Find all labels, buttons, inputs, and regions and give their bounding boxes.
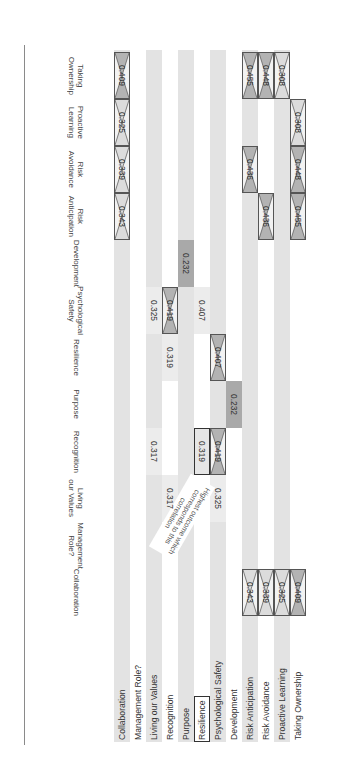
correlation-cell: 0.325 — [274, 569, 290, 616]
cell-value: 0.343 — [117, 206, 127, 227]
cell-value: 0.343 — [245, 582, 255, 603]
table-row-resilience: Resilience — [194, 50, 210, 742]
correlation-cell: 0.325 — [146, 287, 162, 334]
correlation-cell: 0.448 — [290, 146, 306, 193]
cell-value: 0.325 — [277, 582, 287, 603]
correlation-cell: 0.319 — [162, 334, 178, 381]
column-header-management-role: ManagementRole? — [40, 522, 112, 569]
cell-value: 0.436 — [245, 159, 255, 180]
correlation-cell: 0.343 — [114, 193, 130, 240]
correlation-cell: 0.325 — [210, 475, 226, 522]
row-label: Risk Avoidance — [258, 681, 274, 740]
column-header-label: Development — [72, 240, 81, 287]
table-row-proactive-learning: Proactive Learning — [274, 50, 290, 742]
cell-value: 0.317 — [165, 488, 175, 509]
rotated-correlation-table-page: CollaborationManagementRole?Livingour Va… — [0, 0, 349, 764]
cell-value: 0.232 — [181, 253, 191, 274]
column-header-label: Collaboration — [72, 569, 81, 616]
column-header-taking-ownership: TakingOwnership — [40, 52, 112, 99]
column-header-risk-avoidance: RiskAvoidance — [40, 146, 112, 193]
correlation-cell: 0.339 — [258, 569, 274, 616]
column-header-label: ProactiveLearning — [67, 106, 85, 139]
row-label: Development — [226, 689, 242, 740]
correlation-cell: 0.319 — [194, 428, 210, 475]
cell-value: 0.325 — [213, 488, 223, 509]
column-header-development: Development — [40, 240, 112, 287]
row-label: Risk Anticipation — [242, 677, 258, 740]
cell-value: 0.448 — [293, 159, 303, 180]
cell-value: 0.319 — [165, 347, 175, 368]
correlation-cell: 0.455 — [242, 52, 258, 99]
correlation-cell: 0.343 — [242, 569, 258, 616]
column-header-label: ManagementRole? — [67, 522, 85, 569]
row-label: Purpose — [178, 708, 194, 740]
row-label: Proactive Learning — [274, 668, 290, 740]
correlation-cell: 0.448 — [258, 52, 274, 99]
row-label: Collaboration — [114, 689, 130, 740]
cell-value: 0.232 — [229, 394, 239, 415]
correlation-cell: 0.409 — [114, 52, 130, 99]
cell-value: 0.325 — [117, 112, 127, 133]
column-header-label: Livingour Values — [67, 480, 85, 518]
cell-value: 0.308 — [293, 112, 303, 133]
column-header-risk-anticipation: RiskAnticipation — [40, 193, 112, 240]
column-header-label: Resilience — [72, 339, 81, 376]
column-header-psychological-safety: PsychologicalSafety — [40, 287, 112, 334]
cell-value: 0.308 — [277, 65, 287, 86]
table-row-management-role: Management Role? — [130, 50, 146, 742]
correlation-cell: 0.419 — [210, 428, 226, 475]
cell-value: 0.407 — [213, 347, 223, 368]
cell-value: 0.409 — [293, 582, 303, 603]
correlation-cell: 0.317 — [146, 428, 162, 475]
correlation-cell: 0.232 — [178, 240, 194, 287]
column-header-recognition: Recognition — [40, 428, 112, 475]
row-label: Recognition — [162, 695, 178, 740]
table-row-recognition: Recognition — [162, 50, 178, 742]
row-label: Taking Ownership — [290, 672, 306, 740]
column-header-purpose: Purpose — [40, 381, 112, 428]
column-header-resilience: Resilience — [40, 334, 112, 381]
row-label: Resilience — [194, 696, 210, 742]
cell-value: 0.317 — [149, 441, 159, 462]
column-header-proactive-learning: ProactiveLearning — [40, 99, 112, 146]
correlation-cell: 0.407 — [194, 287, 210, 334]
correlation-cell: 0.232 — [226, 381, 242, 428]
column-header-label: Recognition — [72, 430, 81, 472]
cell-value: 0.409 — [117, 65, 127, 86]
correlation-cell: 0.308 — [290, 99, 306, 146]
cell-value: 0.436 — [261, 206, 271, 227]
correlation-cell: 0.419 — [162, 287, 178, 334]
correlation-cell: 0.436 — [242, 146, 258, 193]
row-label: Management Role? — [130, 665, 146, 740]
correlation-cell: 0.436 — [258, 193, 274, 240]
table-row-living-our-values: Living our Values — [146, 50, 162, 742]
cell-value: 0.448 — [261, 65, 271, 86]
column-header-label: Purpose — [72, 390, 81, 420]
table-row-risk-avoidance: Risk Avoidance — [258, 50, 274, 742]
table-row-purpose: Purpose — [178, 50, 194, 742]
column-header-living-our-values: Livingour Values — [40, 475, 112, 522]
column-header-label: RiskAvoidance — [67, 151, 85, 188]
column-header-collaboration: Collaboration — [40, 569, 112, 616]
cell-value: 0.319 — [197, 441, 207, 462]
cell-value: 0.455 — [293, 206, 303, 227]
cell-value: 0.339 — [117, 159, 127, 180]
correlation-cell: 0.407 — [210, 334, 226, 381]
row-label: Psychological Safety — [210, 661, 226, 740]
column-header-label: TakingOwnership — [67, 56, 85, 94]
cell-value: 0.419 — [213, 441, 223, 462]
column-header-label: RiskAnticipation — [67, 196, 85, 237]
correlation-cell: 0.409 — [290, 569, 306, 616]
table-row-psychological-safety: Psychological Safety — [210, 50, 226, 742]
correlation-cell: 0.339 — [114, 146, 130, 193]
column-header-label: PsychologicalSafety — [67, 286, 85, 335]
cell-value: 0.455 — [245, 65, 255, 86]
cell-value: 0.325 — [149, 300, 159, 321]
cell-value: 0.339 — [261, 582, 271, 603]
cell-value: 0.419 — [165, 300, 175, 321]
table-top-rule — [24, 45, 25, 745]
correlation-cell: 0.325 — [114, 99, 130, 146]
correlation-cell: 0.455 — [290, 193, 306, 240]
correlation-cell: 0.308 — [274, 52, 290, 99]
cell-value: 0.407 — [197, 300, 207, 321]
